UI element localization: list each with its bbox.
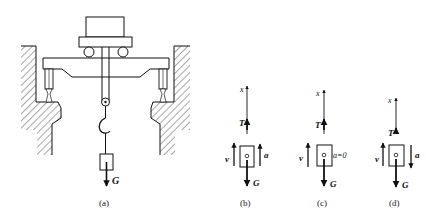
panel-b-fbd: x T G v a (b) (225, 85, 269, 208)
weight-label-c: G (330, 179, 337, 189)
tension-label-d: T (388, 128, 394, 138)
axis-label-d: x (387, 96, 392, 105)
weight-label-d: G (402, 180, 409, 190)
right-end-truck (159, 69, 167, 102)
velocity-label-d: v (375, 154, 380, 164)
crane-girder (43, 58, 169, 77)
caption-c: (c) (317, 198, 327, 208)
weight-label-b: G (253, 178, 260, 188)
caption-a: (a) (99, 198, 109, 208)
velocity-label-b: v (225, 154, 230, 164)
panel-a-crane: G (a) (21, 17, 190, 208)
axis-label-c: x (315, 89, 320, 98)
hook (99, 118, 110, 133)
velocity-label-c: v (299, 153, 304, 163)
axis-label-b: x (239, 85, 244, 94)
trolley (79, 17, 132, 57)
caption-d: (d) (389, 198, 400, 208)
accel-label-b: a (264, 150, 269, 160)
left-end-truck (45, 69, 53, 102)
panel-c-fbd: x T G v a=0 (c) (299, 89, 346, 208)
tension-label-b: T (239, 118, 245, 128)
weight-label-a: G (112, 175, 120, 186)
caption-b: (b) (240, 198, 251, 208)
tension-label-c: T (315, 120, 321, 130)
panel-d-fbd: x T G v a (d) (375, 96, 420, 208)
accel-label-c: a=0 (333, 151, 346, 160)
figure-canvas: G (a) x T G v a (b) x T G v a=0 (c) x (0, 0, 433, 221)
accel-label-d: a (415, 150, 420, 160)
